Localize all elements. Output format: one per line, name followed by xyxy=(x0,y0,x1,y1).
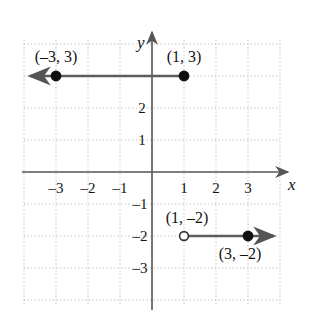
y-tick-neg1: –1 xyxy=(133,197,148,212)
y-tick-neg3: –3 xyxy=(133,261,148,276)
x-tick-neg3: –3 xyxy=(49,181,64,196)
x-axis-label: x xyxy=(288,176,296,193)
x-tick-neg2: –2 xyxy=(81,181,96,196)
annotation-3-neg2: (3, –2) xyxy=(219,246,262,262)
closed-point-3-neg2 xyxy=(243,231,254,242)
annotation-1-neg2: (1, –2) xyxy=(166,210,209,226)
annotation-neg3-3: (–3, 3) xyxy=(35,49,78,65)
y-tick-1: 1 xyxy=(138,133,146,148)
y-tick-neg2: –2 xyxy=(133,229,148,244)
x-tick-2: 2 xyxy=(212,181,220,196)
y-tick-2: 2 xyxy=(138,101,146,116)
closed-point-1-3 xyxy=(179,71,190,82)
closed-point-neg3-3 xyxy=(51,71,62,82)
x-tick-3: 3 xyxy=(244,181,252,196)
coordinate-plane-figure: y x –3 –2 –1 1 2 3 2 1 –1 –2 –3 (–3, 3) … xyxy=(0,0,310,321)
x-tick-neg1: –1 xyxy=(113,181,128,196)
y-axis-label: y xyxy=(137,34,145,51)
open-point-1-neg2 xyxy=(180,232,189,241)
annotation-1-3: (1, 3) xyxy=(167,49,202,65)
x-tick-1: 1 xyxy=(180,181,188,196)
